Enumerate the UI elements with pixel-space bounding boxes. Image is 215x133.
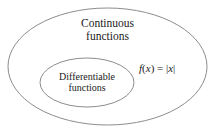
outer-set-label-line2: functions bbox=[0, 30, 215, 43]
abs-bar-right: | bbox=[173, 62, 175, 74]
inner-set-label: Differentiable functions bbox=[40, 71, 134, 93]
inner-set-label-line1: Differentiable bbox=[40, 71, 134, 82]
inner-set-label-line2: functions bbox=[40, 82, 134, 93]
absolute-value-function-annotation: f(x) = |x| bbox=[139, 62, 175, 74]
outer-set-label: Continuous functions bbox=[0, 17, 215, 43]
outer-set-label-line1: Continuous bbox=[0, 17, 215, 30]
euler-diagram-continuous-differentiable: Continuous functions Differentiable func… bbox=[0, 0, 215, 133]
equals-sign: = bbox=[154, 62, 166, 74]
